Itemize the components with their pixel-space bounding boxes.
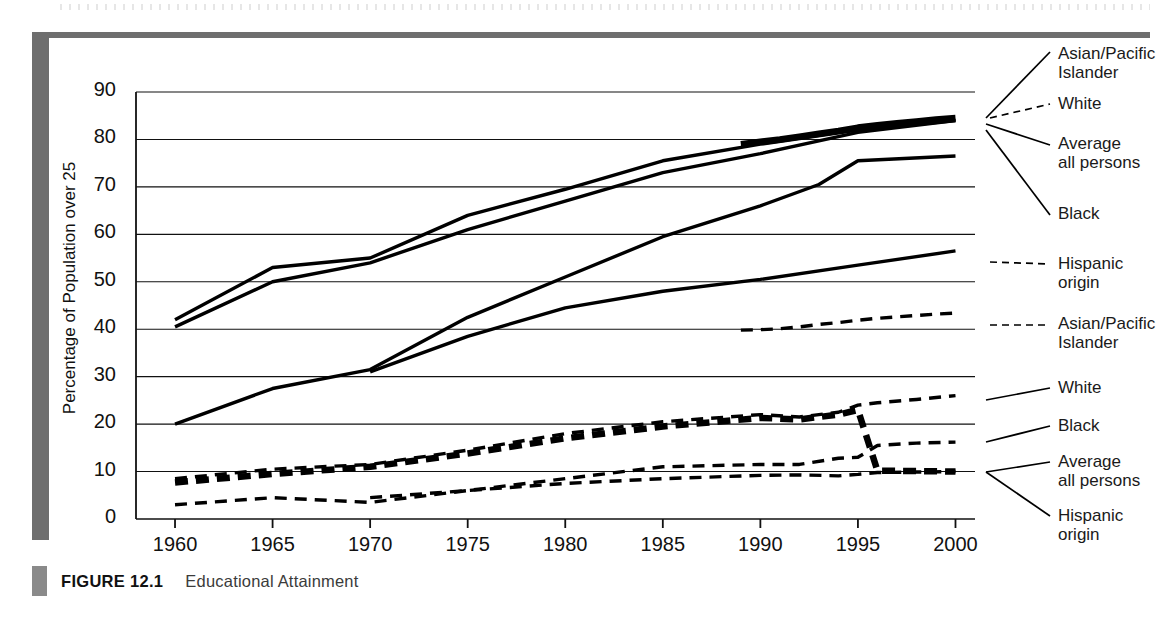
chart-area: Percentage of Population over 25 0102030…: [0, 0, 1174, 618]
figure-number: FIGURE 12.1: [61, 572, 163, 591]
x-axis-tick-label: 1965: [228, 533, 318, 556]
legend-label-line2: all persons: [1058, 471, 1140, 490]
y-axis-tick-label: 0: [64, 505, 116, 528]
figure-caption: FIGURE 12.1 Educational Attainment: [32, 566, 359, 596]
series-line-college-asian-pacific-islander: [741, 313, 956, 330]
legend-leader-line: [990, 104, 1050, 118]
line-chart: [0, 0, 1174, 618]
y-axis-tick-label: 20: [64, 410, 116, 433]
legend-label: Hispanicorigin: [1058, 506, 1123, 544]
x-axis-tick-label: 1995: [813, 533, 903, 556]
x-axis-tick-label: 2000: [910, 533, 1000, 556]
legend-label: Averageall persons: [1058, 134, 1140, 172]
y-axis-tick-label: 80: [64, 125, 116, 148]
caption-accent-bar: [32, 566, 47, 596]
x-axis-tick-label: 1990: [715, 533, 805, 556]
legend-label-line2: origin: [1058, 525, 1123, 544]
series-line-high-school-black: [175, 156, 955, 424]
x-axis-tick-label: 1980: [520, 533, 610, 556]
series-line-high-school-average-all-persons: [175, 120, 955, 326]
legend-label-line1: Black: [1058, 204, 1100, 223]
x-axis-tick-label: 1970: [325, 533, 415, 556]
legend-label: Averageall persons: [1058, 452, 1140, 490]
y-axis-tick-label: 50: [64, 268, 116, 291]
legend-label: White: [1058, 378, 1101, 397]
legend-label: Asian/PacificIslander: [1058, 314, 1155, 352]
legend-leader-line: [986, 130, 1050, 215]
y-axis-tick-label: 60: [64, 220, 116, 243]
legend-leader-line: [986, 388, 1050, 400]
legend-label-line1: Hispanic: [1058, 254, 1123, 273]
legend-label-line2: origin: [1058, 273, 1123, 292]
legend-leader-line: [986, 426, 1050, 442]
legend-label-line1: Asian/Pacific: [1058, 44, 1155, 63]
series-line-college-hispanic-origin: [370, 472, 955, 498]
legend-label-line2: all persons: [1058, 153, 1140, 172]
y-axis-tick-label: 40: [64, 315, 116, 338]
legend-label: Black: [1058, 416, 1100, 435]
series-line-high-school-hispanic-origin: [370, 251, 955, 372]
y-axis-tick-label: 90: [64, 78, 116, 101]
figure-title: Educational Attainment: [185, 572, 358, 591]
legend-label-line1: Average: [1058, 452, 1140, 471]
x-axis-tick-label: 1960: [130, 533, 220, 556]
legend-leader-line: [986, 52, 1050, 118]
y-axis-tick-label: 70: [64, 173, 116, 196]
legend-label-line2: Islander: [1058, 63, 1155, 82]
legend-leader-line: [990, 262, 1050, 264]
x-axis-tick-label: 1985: [618, 533, 708, 556]
legend-label-line1: White: [1058, 378, 1101, 397]
y-axis-tick-label: 30: [64, 363, 116, 386]
series-line-college-white: [175, 396, 955, 479]
series-line-high-school-white: [175, 120, 955, 319]
legend-label-line2: Islander: [1058, 333, 1155, 352]
legend-label: Asian/PacificIslander: [1058, 44, 1155, 82]
legend-label: Black: [1058, 204, 1100, 223]
legend-label: White: [1058, 94, 1101, 113]
legend-leader-line: [986, 472, 1050, 516]
legend-label-line1: Asian/Pacific: [1058, 314, 1155, 333]
legend-label-line1: Average: [1058, 134, 1140, 153]
x-axis-tick-label: 1975: [423, 533, 513, 556]
legend-label: Hispanicorigin: [1058, 254, 1123, 292]
legend-label-line1: Black: [1058, 416, 1100, 435]
y-axis-tick-label: 10: [64, 458, 116, 481]
figure-page: Percentage of Population over 25 0102030…: [0, 0, 1174, 618]
legend-leader-line: [986, 462, 1050, 472]
legend-label-line1: White: [1058, 94, 1101, 113]
legend-label-line1: Hispanic: [1058, 506, 1123, 525]
